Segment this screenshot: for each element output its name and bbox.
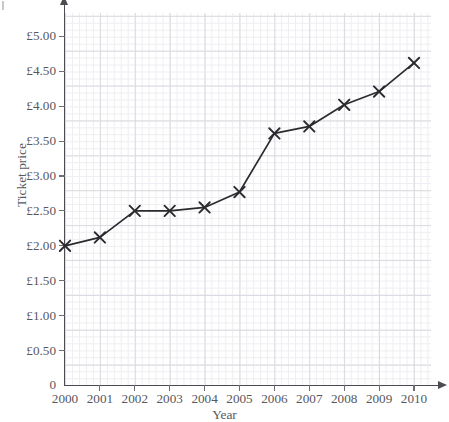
series-line [65,63,414,246]
data-series-layer [0,0,449,422]
series-markers [60,58,419,251]
line-chart: 0£0.50£1.00£1.50£2.00£2.50£3.00£3.50£4.0… [0,0,449,422]
data-point-marker [374,86,384,96]
data-point-marker [339,100,349,110]
data-point-marker [409,58,419,68]
data-point-marker [234,187,244,197]
